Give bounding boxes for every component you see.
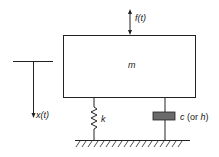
ground: [75, 141, 190, 148]
mass-label: m: [128, 60, 136, 70]
spring-label: k: [101, 114, 106, 124]
sdof-diagram: m f(t) x(t) k c (or h): [0, 0, 219, 157]
force-arrow: [128, 9, 132, 35]
damper-alt-label: (or h): [187, 112, 209, 122]
force-label: f(t): [135, 13, 146, 23]
damper: [153, 97, 175, 140]
displacement-label: x(t): [35, 110, 49, 120]
spring: [91, 97, 97, 140]
damper-label: c: [180, 112, 185, 122]
